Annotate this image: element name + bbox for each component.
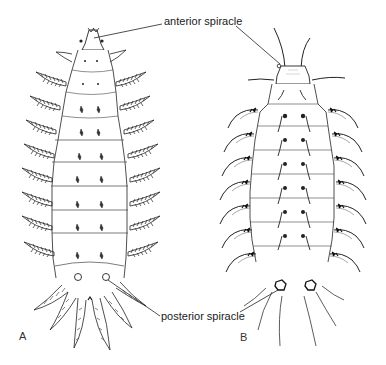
panel-label-b: B: [240, 332, 247, 343]
posterior-spiracle-label: posterior spiracle: [161, 311, 245, 322]
anterior-leader-a: [94, 24, 162, 38]
larva-b-drawing: [220, 28, 366, 346]
anterior-spiracle-label: anterior spiracle: [164, 16, 242, 27]
larva-comparison-figure: anterior spiracle posterior spiracle A B: [0, 0, 386, 365]
anterior-leader-b: [236, 26, 280, 64]
panel-label-a: A: [19, 331, 26, 342]
posterior-leader-b: [240, 290, 278, 312]
